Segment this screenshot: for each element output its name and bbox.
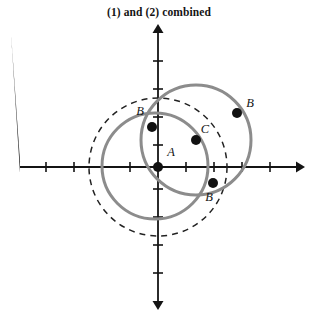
point-label-A: A <box>166 145 175 159</box>
point-label-C: C <box>201 122 210 136</box>
point-label-B3: B <box>205 190 213 204</box>
point-C <box>191 135 201 145</box>
x-axis-right-arrow-icon <box>296 162 305 173</box>
point-label-B1: B <box>136 104 144 118</box>
coordinate-plane: ABBBC <box>0 0 318 321</box>
point-A <box>153 162 163 172</box>
point-label-B2: B <box>246 96 254 110</box>
y-axis-down-arrow-icon <box>153 301 164 310</box>
point-B3 <box>208 178 218 188</box>
y-axis-up-arrow-icon <box>153 24 164 33</box>
point-B2 <box>232 108 242 118</box>
point-B1 <box>147 122 157 132</box>
x-axis-left-arrow-icon <box>11 33 20 173</box>
figure-container: (1) and (2) combined ABBBC <box>0 0 318 321</box>
circles-group <box>89 85 251 236</box>
